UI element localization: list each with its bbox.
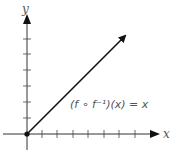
function-graph: y x (f ∘ f⁻¹)(x) = x — [0, 0, 173, 159]
y-axis-label: y — [21, 2, 29, 16]
origin-point — [24, 131, 29, 136]
identity-line — [27, 36, 125, 134]
x-axis-label: x — [163, 127, 170, 141]
equation-label: (f ∘ f⁻¹)(x) = x — [70, 98, 149, 111]
